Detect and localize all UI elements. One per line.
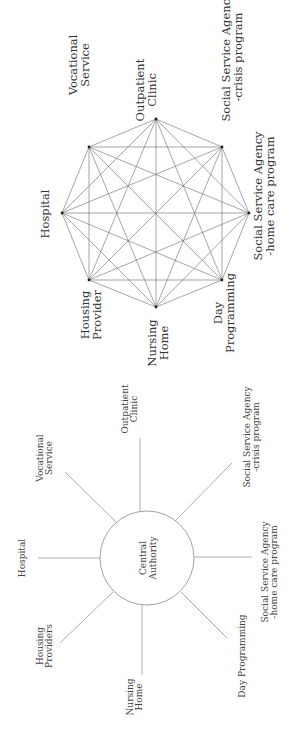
node-nursing xyxy=(155,306,158,309)
label-housing: Housing Provider xyxy=(78,289,104,340)
label-line: Authority xyxy=(148,536,158,581)
network-edge xyxy=(62,213,222,280)
label-line: Clinic xyxy=(129,396,139,422)
label-line: Home xyxy=(134,683,144,710)
network-edge xyxy=(156,147,222,307)
label-line: -home care program xyxy=(269,525,279,619)
label-line: Day Programming xyxy=(237,614,247,697)
node-housing xyxy=(88,279,91,282)
node-ssa-home xyxy=(248,212,251,215)
node-hospital xyxy=(61,212,64,215)
label-outpatient: Outpatient Clinic xyxy=(133,58,159,121)
label-nursing: Nursing Home xyxy=(145,319,171,367)
label-line: -crisis program xyxy=(251,402,261,472)
label-line: Clinic xyxy=(145,73,159,107)
label-hospital: Hospital xyxy=(38,189,52,238)
network-edge xyxy=(222,213,249,280)
hub-label-outpatient: Outpatient Clinic xyxy=(120,384,139,434)
hub-label-ssa-crisis: Social Service Agency -crisis program xyxy=(242,386,261,488)
network-edge xyxy=(62,147,222,213)
hub-label-nursing: Nursing Home xyxy=(125,678,144,715)
spoke-ssa-crisis xyxy=(175,463,232,521)
node-ssa-crisis xyxy=(221,146,224,149)
network-edge xyxy=(62,213,89,280)
label-ssa-home: Social Service Agency -home care program xyxy=(251,131,277,261)
network-diagram: Outpatient Clinic Vocational Service Hos… xyxy=(38,0,277,367)
spoke-housing xyxy=(60,592,113,643)
label-day: Day Programming xyxy=(211,272,237,353)
label-line: Home xyxy=(157,325,171,360)
hub-diagram: Central Authority Outpatient Clinic Voca… xyxy=(17,384,279,715)
label-line: Providers xyxy=(44,624,54,668)
node-vocational xyxy=(88,146,91,149)
label-line: -crisis program xyxy=(231,12,245,101)
spoke-day xyxy=(181,592,227,638)
hub-label-vocational: Vocational Service xyxy=(35,434,54,483)
network-edge xyxy=(222,147,249,213)
network-edge xyxy=(62,147,89,213)
network-edge xyxy=(62,119,156,213)
label-line: Central xyxy=(138,541,148,575)
hub-label-ssa-home: Social Service Agency -home care program xyxy=(260,521,279,623)
label-line: Service xyxy=(78,43,92,87)
network-edge xyxy=(89,147,156,307)
hub-label-housing: Housing Providers xyxy=(35,624,54,668)
label-line: Hospital xyxy=(38,189,52,238)
label-vocational: Vocational Service xyxy=(66,34,92,96)
network-edge xyxy=(89,147,249,213)
label-line: Provider xyxy=(90,289,104,340)
label-line: Programming xyxy=(223,272,237,353)
node-outpatient xyxy=(155,118,158,121)
label-line: -home care program xyxy=(263,136,277,255)
label-ssa-crisis: Social Service Agency -crisis program xyxy=(219,0,245,122)
network-edge xyxy=(156,119,222,280)
figure: Outpatient Clinic Vocational Service Hos… xyxy=(0,0,293,738)
spoke-vocational xyxy=(65,472,116,522)
label-line: Hospital xyxy=(17,539,27,578)
hub-label-day: Day Programming xyxy=(237,614,247,697)
hub-label-hospital: Hospital xyxy=(17,539,27,578)
central-authority-label: Central Authority xyxy=(138,536,158,581)
label-line: Service xyxy=(44,441,54,475)
